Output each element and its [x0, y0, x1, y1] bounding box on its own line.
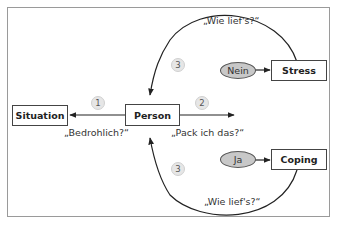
node-situation-label: Situation: [16, 110, 65, 121]
decision-ja: Ja: [220, 151, 256, 168]
node-stress: Stress: [271, 60, 327, 81]
question-wie-liefs-top: „Wie lief's?“: [203, 15, 259, 26]
step-badge-3-bottom: 3: [171, 162, 185, 176]
question-wie-liefs-bottom: „Wie lief's?“: [204, 196, 260, 207]
step-badge-1: 1: [91, 96, 105, 110]
question-pack-ich-das: „Pack ich das?“: [171, 127, 244, 138]
node-coping: Coping: [271, 149, 327, 170]
arc-stress-to-person: [150, 15, 297, 95]
node-situation: Situation: [12, 105, 68, 126]
question-bedrohlich: „Bedrohlich?“: [64, 127, 129, 138]
node-person-label: Person: [134, 110, 171, 121]
node-stress-label: Stress: [282, 65, 316, 76]
node-coping-label: Coping: [280, 154, 317, 165]
node-person: Person: [125, 104, 180, 126]
decision-nein: Nein: [220, 62, 256, 79]
step-badge-2: 2: [195, 96, 209, 110]
step-badge-3-top: 3: [171, 58, 185, 72]
decision-nein-label: Nein: [227, 65, 249, 76]
decision-ja-label: Ja: [234, 154, 243, 165]
